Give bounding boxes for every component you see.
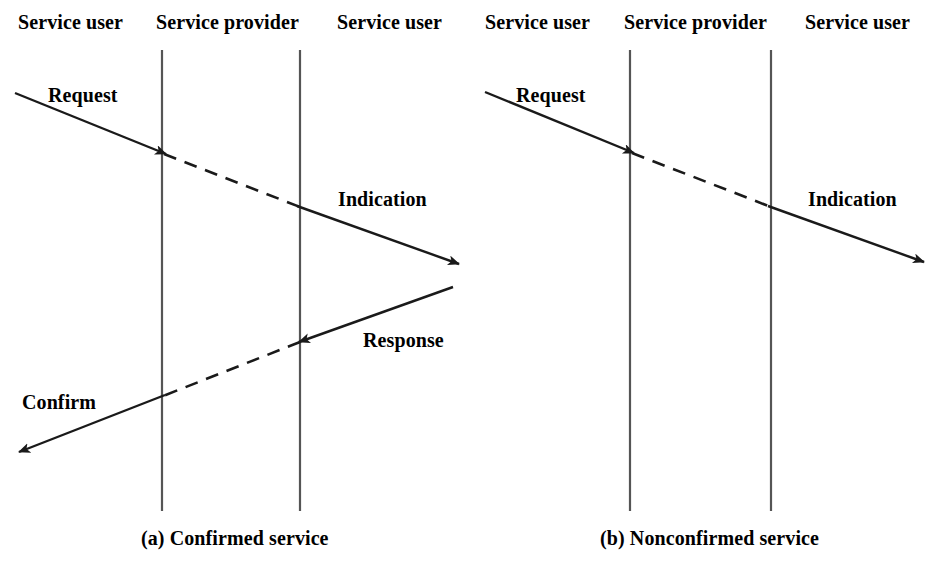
message-b-request (485, 92, 771, 207)
panel-b-lifelines (630, 50, 771, 511)
panel-b-label-indication: Indication (808, 188, 897, 210)
panel-a-label-request: Request (48, 84, 118, 106)
panel-b-header-service-user-left: Service user (485, 11, 590, 33)
panel-a-caption: (a) Confirmed service (141, 527, 329, 549)
arrow-a-response-dashed (163, 342, 300, 396)
panel-a-header-service-user-right: Service user (337, 11, 442, 33)
arrow-a-indication (297, 206, 459, 264)
panel-b-header-service-provider: Service provider (624, 11, 767, 33)
message-b-indication (768, 206, 924, 262)
panel-a-header-service-provider: Service provider (156, 11, 299, 33)
arrow-b-indication (768, 206, 924, 262)
figure-canvas: Service user Service provider Service us… (0, 0, 939, 565)
panel-a-header-service-user-left: Service user (18, 11, 123, 33)
message-a-request (15, 93, 300, 207)
arrow-a-request-dashed (164, 154, 300, 207)
arrow-b-request-dashed (632, 153, 771, 207)
diagram-svg (0, 0, 939, 565)
panel-a-lifelines (162, 50, 300, 511)
panel-a-label-indication: Indication (338, 188, 427, 210)
panel-a-label-confirm: Confirm (22, 391, 96, 413)
panel-a-label-response: Response (363, 329, 444, 351)
panel-b-caption: (b) Nonconfirmed service (600, 527, 819, 549)
panel-b-label-request: Request (516, 84, 586, 106)
message-a-indication (297, 206, 459, 264)
panel-b-header-service-user-right: Service user (805, 11, 910, 33)
